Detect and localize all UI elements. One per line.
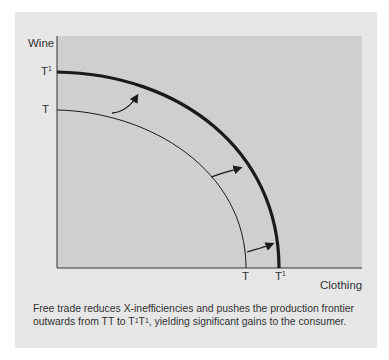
curve-tt xyxy=(57,110,246,268)
shift-arrow-icon xyxy=(247,244,272,252)
figure-caption: Free trade reduces X-inefficiencies and … xyxy=(33,302,373,328)
y-tick-t1: T1 xyxy=(41,66,52,78)
y-axis-label: Wine xyxy=(28,38,54,50)
curve-t1t1 xyxy=(57,72,279,268)
x-tick-t1: T1 xyxy=(275,271,286,283)
x-axis-label: Clothing xyxy=(320,280,362,292)
x-tick-t: T xyxy=(242,271,249,283)
shift-arrow-icon xyxy=(112,96,137,113)
y-tick-t: T xyxy=(42,104,49,116)
shift-arrow-icon xyxy=(211,168,240,177)
